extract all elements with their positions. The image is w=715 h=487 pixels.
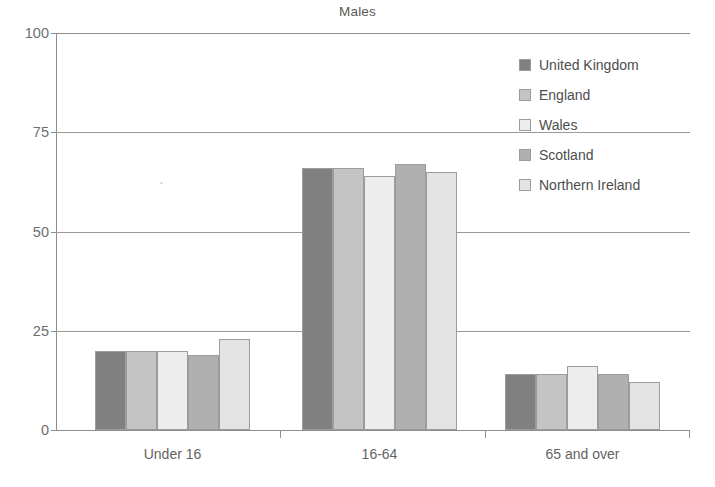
bar: [505, 374, 536, 430]
legend-label: Northern Ireland: [539, 178, 640, 192]
x-tick-mark-1: [485, 430, 486, 438]
legend-item[interactable]: Northern Ireland: [519, 170, 640, 200]
legend-swatch-icon: [519, 119, 531, 131]
legend-swatch-icon: [519, 179, 531, 191]
gridline-100: [56, 33, 690, 34]
bar: [126, 351, 157, 430]
legend-label: Scotland: [539, 148, 593, 162]
x-category-label: 65 and over: [505, 447, 660, 461]
legend-label: Wales: [539, 118, 577, 132]
y-tick-mark-50: [51, 232, 56, 233]
bar: [629, 382, 660, 430]
y-tick-label-100: 100: [3, 26, 49, 41]
bar: [188, 355, 219, 430]
bar: [302, 168, 333, 430]
x-category-label: Under 16: [95, 447, 250, 461]
y-tick-label-25: 25: [3, 324, 49, 339]
bar: [95, 351, 126, 430]
bar: [333, 168, 364, 430]
bar: [426, 172, 457, 430]
y-tick-mark-100: [51, 33, 56, 34]
y-tick-label-50: 50: [3, 225, 49, 240]
legend-swatch-icon: [519, 59, 531, 71]
bar-chart-figure: Males 0255075100 Under 1616-6465 and ove…: [0, 0, 715, 487]
chart-title: Males: [0, 4, 715, 19]
bar: [536, 374, 567, 430]
legend-item[interactable]: England: [519, 80, 640, 110]
bar: [567, 366, 598, 430]
x-axis-line: [56, 430, 690, 431]
x-tick-mark-2: [689, 430, 690, 438]
y-tick-mark-0: [51, 430, 56, 431]
x-category-label: 16-64: [302, 447, 457, 461]
bar: [157, 351, 188, 430]
y-tick-label-0: 0: [3, 423, 49, 438]
legend-swatch-icon: [519, 149, 531, 161]
y-tick-mark-25: [51, 331, 56, 332]
legend-label: United Kingdom: [539, 58, 639, 72]
bar: [598, 374, 629, 430]
legend-item[interactable]: United Kingdom: [519, 50, 640, 80]
x-tick-mark-0: [280, 430, 281, 438]
bar: [364, 176, 395, 430]
legend-item[interactable]: Wales: [519, 110, 640, 140]
legend-item[interactable]: Scotland: [519, 140, 640, 170]
legend-swatch-icon: [519, 89, 531, 101]
bar: [219, 339, 250, 430]
y-tick-mark-75: [51, 132, 56, 133]
chart-legend: United KingdomEnglandWalesScotlandNorthe…: [519, 50, 640, 200]
y-tick-label-75: 75: [3, 125, 49, 140]
bar: [395, 164, 426, 430]
legend-label: England: [539, 88, 590, 102]
